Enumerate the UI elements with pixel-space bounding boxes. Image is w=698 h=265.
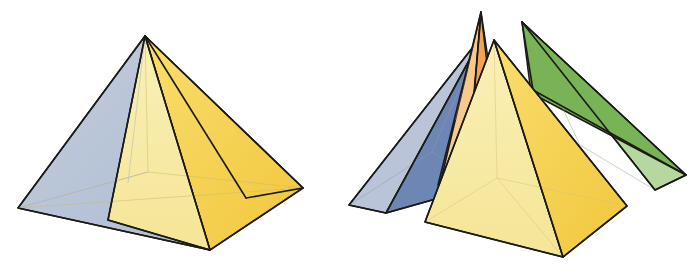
pyramid-dissection-figure	[0, 0, 698, 265]
figure-canvas	[0, 0, 698, 265]
